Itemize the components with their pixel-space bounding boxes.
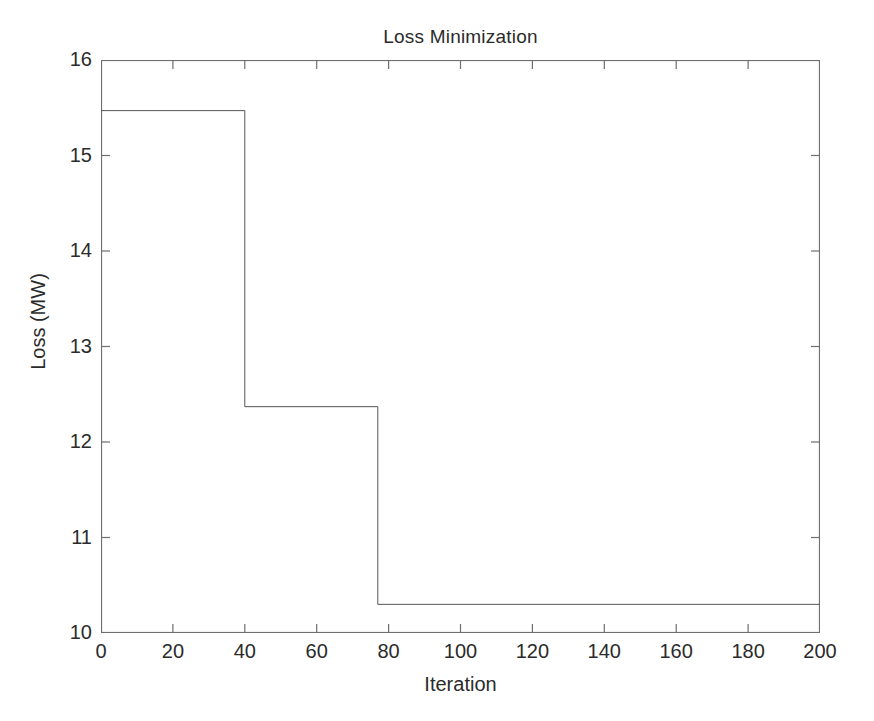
loss-step-line bbox=[101, 111, 820, 605]
y-tick-label: 15 bbox=[70, 145, 92, 165]
x-tick-label: 180 bbox=[731, 641, 764, 661]
chart-title: Loss Minimization bbox=[101, 26, 820, 48]
figure-canvas: Loss Minimization 10111213141516 0204060… bbox=[0, 0, 874, 721]
x-tick-label: 60 bbox=[306, 641, 328, 661]
x-tick-label: 140 bbox=[588, 641, 621, 661]
y-tick-label: 12 bbox=[70, 431, 92, 451]
y-axis-title: Loss (MW) bbox=[27, 232, 50, 412]
axis-frame bbox=[102, 61, 820, 633]
x-tick-label: 0 bbox=[95, 641, 106, 661]
x-tick-label: 160 bbox=[660, 641, 693, 661]
data-series-loss bbox=[101, 111, 820, 605]
x-tick-label-group: 020406080100120140160180200 bbox=[101, 641, 820, 669]
y-tick-label: 16 bbox=[70, 49, 92, 69]
x-tick-label: 20 bbox=[162, 641, 184, 661]
y-tick-label: 10 bbox=[70, 622, 92, 642]
x-tick-label: 120 bbox=[516, 641, 549, 661]
y-tick-label: 13 bbox=[70, 336, 92, 356]
x-axis-title: Iteration bbox=[101, 673, 820, 696]
y-tick-label: 14 bbox=[70, 240, 92, 260]
y-tick-label: 11 bbox=[71, 527, 92, 547]
x-tick-label: 200 bbox=[803, 641, 836, 661]
tick-marks bbox=[101, 60, 820, 633]
x-tick-label: 100 bbox=[444, 641, 477, 661]
x-tick-label: 80 bbox=[377, 641, 399, 661]
plot-area bbox=[101, 60, 820, 633]
plot-svg bbox=[101, 60, 820, 633]
x-tick-label: 40 bbox=[234, 641, 256, 661]
